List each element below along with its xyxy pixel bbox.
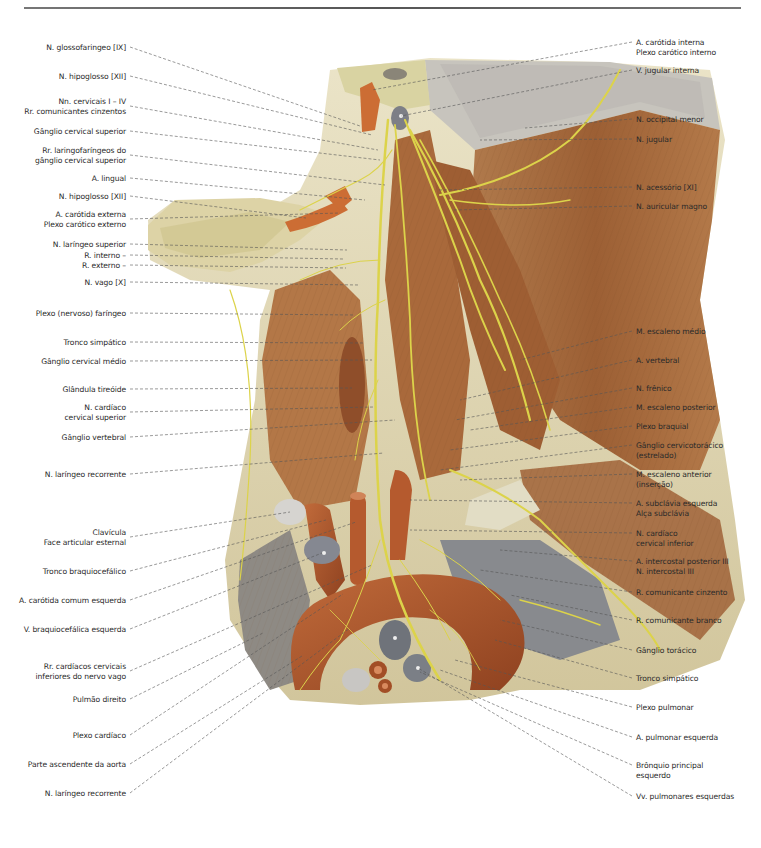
label-line: N. cardíaco <box>65 403 127 413</box>
label-line: cervical inferior <box>636 539 694 549</box>
anatomy-label: N. acessório [XI] <box>636 183 697 193</box>
label-line: N. occipital menor <box>636 115 704 125</box>
label-line: V. braquiocefálica esquerda <box>24 625 126 635</box>
anatomy-label: Gânglio cervical superior <box>34 127 126 137</box>
label-line: Clavícula <box>44 528 126 538</box>
label-line: A. pulmonar esquerda <box>636 733 718 743</box>
label-line: N. laríngeo superior <box>53 240 126 250</box>
label-line: A. carótida externa <box>44 210 126 220</box>
label-line: A. carótida interna <box>636 38 716 48</box>
anatomy-label: Plexo (nervoso) faríngeo <box>36 309 126 319</box>
anatomy-label: V. jugular interna <box>636 66 699 76</box>
anatomy-label: Pulmão direito <box>73 695 126 705</box>
label-line: R. comunicante branco <box>636 616 722 626</box>
anatomy-label: A. lingual <box>92 174 126 184</box>
anatomy-label: N. frênico <box>636 384 672 394</box>
label-line: Plexo pulmonar <box>636 703 694 713</box>
label-line: Parte ascendente da aorta <box>28 760 126 770</box>
anatomy-label: A. carótida externaPlexo carótico extern… <box>44 210 126 230</box>
anatomy-label: A. subclávia esquerdaAlça subclávia <box>636 499 717 519</box>
label-line: Plexo cardíaco <box>73 731 126 741</box>
anatomy-label: N. hipoglosso [XII] <box>59 192 126 202</box>
anatomy-label: Tronco simpático <box>636 674 698 684</box>
anatomy-label: A. intercostal posterior IIIN. intercost… <box>636 557 729 577</box>
anatomy-label: N. laríngeo superior <box>53 240 126 250</box>
label-line: (estrelado) <box>636 451 723 461</box>
anatomy-label: N. hipoglosso [XII] <box>59 72 126 82</box>
label-line: Face articular esternal <box>44 538 126 548</box>
label-line: Rr. cardíacos cervicais <box>36 662 126 672</box>
anatomy-label: Parte ascendente da aorta <box>28 760 126 770</box>
anatomy-label: Rr. laringofaríngeos dogânglio cervical … <box>35 146 126 166</box>
label-line: M. escaleno posterior <box>636 403 715 413</box>
anatomy-label: A. vertebral <box>636 356 679 366</box>
anatomy-label: Gânglio cervical médio <box>41 357 126 367</box>
label-line: V. jugular interna <box>636 66 699 76</box>
anatomy-label: R. externo – <box>82 261 126 271</box>
anatomy-label: M. escaleno anterior(inserção) <box>636 470 712 490</box>
anatomy-label: M. escaleno médio <box>636 327 705 337</box>
anatomy-label: R. comunicante branco <box>636 616 722 626</box>
label-line: gânglio cervical superior <box>35 156 126 166</box>
anatomy-label: Tronco simpático <box>64 338 126 348</box>
label-line: N. auricular magno <box>636 202 707 212</box>
label-line: N. cardíaco <box>636 529 694 539</box>
label-line: Gânglio vertebral <box>62 433 126 443</box>
label-line: N. laríngeo recorrente <box>45 789 126 799</box>
label-line: Gânglio cervicotorácico <box>636 441 723 451</box>
label-line: Alça subclávia <box>636 509 717 519</box>
anatomy-label: N. auricular magno <box>636 202 707 212</box>
label-line: N. vago [X] <box>84 278 126 288</box>
label-line: Rr. comunicantes cinzentos <box>24 107 126 117</box>
anatomy-label: M. escaleno posterior <box>636 403 715 413</box>
label-line: A. carótida comum esquerda <box>19 596 126 606</box>
label-line: Rr. laringofaríngeos do <box>35 146 126 156</box>
label-line: A. lingual <box>92 174 126 184</box>
anatomy-label: A. carótida internaPlexo carótico intern… <box>636 38 716 58</box>
anatomy-label: N. laríngeo recorrente <box>45 789 126 799</box>
label-line: A. intercostal posterior III <box>636 557 729 567</box>
label-line: Plexo braquial <box>636 422 688 432</box>
anatomy-label: Rr. cardíacos cervicaisinferiores do ner… <box>36 662 126 682</box>
label-line: esquerdo <box>636 771 703 781</box>
label-line: Pulmão direito <box>73 695 126 705</box>
label-line: N. intercostal III <box>636 567 729 577</box>
label-line: Vv. pulmonares esquerdas <box>636 792 734 802</box>
label-line: Glândula tireóide <box>62 385 126 395</box>
label-line: R. interno – <box>84 251 126 261</box>
label-line: N. hipoglosso [XII] <box>59 192 126 202</box>
label-line: Tronco braquiocefálico <box>43 567 126 577</box>
label-line: Nn. cervicais I – IV <box>24 97 126 107</box>
anatomy-label: N. vago [X] <box>84 278 126 288</box>
anatomy-label: Gânglio torácico <box>636 646 696 656</box>
label-line: N. laríngeo recorrente <box>45 470 126 480</box>
label-line: R. comunicante cinzento <box>636 588 727 598</box>
anatomy-label: Vv. pulmonares esquerdas <box>636 792 734 802</box>
label-line: Gânglio torácico <box>636 646 696 656</box>
anatomy-label: N. laríngeo recorrente <box>45 470 126 480</box>
label-line: N. frênico <box>636 384 672 394</box>
label-line: N. hipoglosso [XII] <box>59 72 126 82</box>
anatomy-label: N. cardíacocervical superior <box>65 403 127 423</box>
anatomy-label: A. carótida comum esquerda <box>19 596 126 606</box>
label-line: M. escaleno médio <box>636 327 705 337</box>
label-line: N. glossofaringeo [IX] <box>46 43 126 53</box>
label-line: M. escaleno anterior <box>636 470 712 480</box>
anatomy-label: N. occipital menor <box>636 115 704 125</box>
anatomy-label: R. interno – <box>84 251 126 261</box>
label-line: inferiores do nervo vago <box>36 672 126 682</box>
label-line: Gânglio cervical médio <box>41 357 126 367</box>
anatomy-label: Plexo braquial <box>636 422 688 432</box>
label-line: R. externo – <box>82 261 126 271</box>
anatomy-label: Glândula tireóide <box>62 385 126 395</box>
label-line: Tronco simpático <box>64 338 126 348</box>
anatomy-label: Plexo pulmonar <box>636 703 694 713</box>
anatomy-label: R. comunicante cinzento <box>636 588 727 598</box>
anatomy-label: Gânglio cervicotorácico(estrelado) <box>636 441 723 461</box>
label-line: cervical superior <box>65 413 127 423</box>
anatomy-label: N. cardíacocervical inferior <box>636 529 694 549</box>
label-line: A. subclávia esquerda <box>636 499 717 509</box>
label-line: A. vertebral <box>636 356 679 366</box>
label-line: (inserção) <box>636 480 712 490</box>
label-line: Brônquio principal <box>636 761 703 771</box>
